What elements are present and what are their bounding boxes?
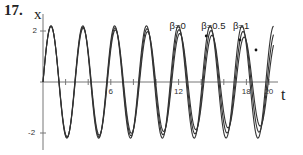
plot-area (0, 0, 303, 155)
annotation-marker (255, 49, 258, 52)
y-tick-label: -2 (28, 128, 35, 137)
legend-label: β=1 (233, 20, 249, 31)
figure: 17. x t 61218202-2β=0β=0.5β=1 (0, 0, 303, 155)
x-tick-label: 20 (264, 87, 273, 96)
y-tick-label: 2 (33, 26, 37, 35)
x-tick-label: 18 (242, 87, 251, 96)
legend-label: β=0 (170, 20, 186, 31)
x-tick-label: 12 (174, 87, 183, 96)
x-tick-label: 6 (109, 87, 113, 96)
legend-label: β=0.5 (201, 20, 225, 31)
annotation-marker (205, 35, 208, 38)
annotation-marker (238, 39, 241, 42)
